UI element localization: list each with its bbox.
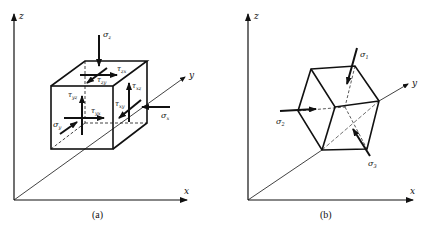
caption-b: (b) <box>320 209 332 221</box>
sigma-y-arrow <box>60 122 77 134</box>
sigma-1-label: σ1 <box>360 50 369 60</box>
y-axis <box>248 150 322 200</box>
sigma-z-label: σz <box>103 30 111 40</box>
x-axis-label: x <box>410 186 415 196</box>
panel-b: z x y σ1 σ2 σ3 (b) <box>248 11 418 221</box>
sigma-3-arrow <box>353 129 370 156</box>
y-axis-outer <box>379 84 408 101</box>
x-axis-label: x <box>184 186 189 196</box>
stress-element-diagram: z x y σz τzx τzy τyz τyx σy τxz τ <box>0 0 423 229</box>
panel-a: z x y σz τzx τzy τyz τyx σy τxz τ <box>14 11 195 221</box>
axes-b <box>248 14 413 200</box>
sigma-x-label: σx <box>161 111 169 121</box>
sigma-2-label: σ2 <box>276 117 285 127</box>
tau-xz-label: τxz <box>132 82 142 91</box>
tau-zy-label: τzy <box>97 76 107 86</box>
tau-xy-label: τxy <box>115 100 125 110</box>
tau-yz-label: τyz <box>68 91 78 101</box>
sigma-3-label: σ3 <box>368 159 377 169</box>
principal-stress-cube <box>298 66 379 150</box>
z-axis-label: z <box>18 11 24 21</box>
sigma-2-arrow <box>280 109 316 111</box>
z-axis-label: z <box>253 11 259 21</box>
caption-a: (a) <box>92 209 103 221</box>
tau-zx-label: τzx <box>117 65 127 74</box>
sigma-y-label: σy <box>53 120 61 131</box>
y-axis <box>14 77 185 200</box>
tau-yx-label: τyx <box>91 107 101 117</box>
y-axis-label: y <box>188 70 195 80</box>
y-axis-label: y <box>411 78 418 88</box>
